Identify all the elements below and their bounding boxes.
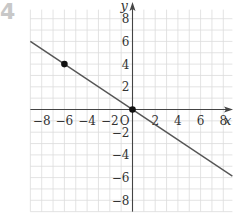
x-tick-label: −8: [33, 114, 51, 128]
y-tick-label: 4: [122, 58, 130, 72]
x-tick-label: 4: [174, 114, 182, 128]
y-axis-label: y: [120, 0, 129, 13]
y-tick-label: −4: [112, 148, 130, 162]
y-tick-label: 2: [122, 80, 130, 94]
x-tick-label: 6: [197, 114, 205, 128]
x-tick-label: −6: [56, 114, 74, 128]
coordinate-plane-chart: −8−6−4−224688642−2−4−6−8Oxy: [0, 0, 233, 216]
x-tick-label: −4: [78, 114, 96, 128]
data-point: [129, 106, 136, 113]
y-tick-label: 6: [122, 35, 130, 49]
y-tick-label: −6: [112, 171, 130, 185]
y-tick-label: −8: [112, 194, 130, 208]
origin-label: O: [120, 114, 130, 128]
data-point: [61, 61, 68, 68]
y-tick-label: −2: [112, 126, 130, 140]
x-axis-label: x: [224, 113, 232, 128]
y-tick-label: 8: [122, 12, 130, 26]
